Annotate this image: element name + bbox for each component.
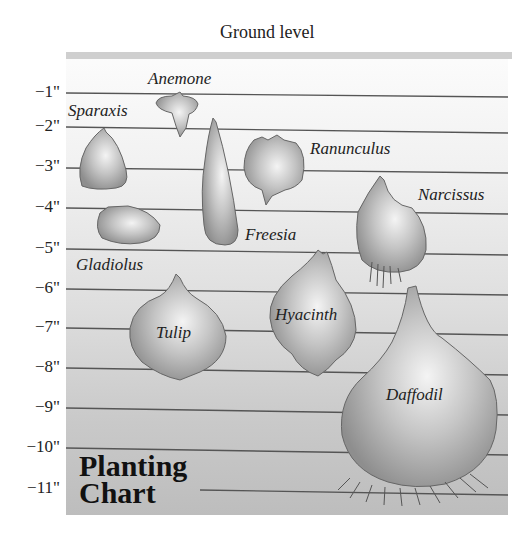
title-line-2: Chart — [79, 479, 187, 506]
label-anemone: Anemone — [147, 69, 212, 88]
label-sparaxis: Sparaxis — [68, 101, 128, 120]
label-hyacinth: Hyacinth — [274, 305, 337, 324]
label-freesia: Freesia — [244, 225, 296, 244]
title-line-1: Planting — [79, 452, 187, 479]
ranunculus-bulb — [244, 135, 304, 205]
label-daffodil: Daffodil — [385, 385, 443, 404]
sparaxis-bulb — [80, 128, 127, 189]
freesia-bulb — [202, 118, 238, 245]
label-tulip: Tulip — [156, 323, 191, 342]
narcissus-bulb — [357, 176, 427, 272]
label-gladiolus: Gladiolus — [76, 255, 143, 274]
planting-chart-title: Planting Chart — [79, 452, 187, 506]
gladiolus-bulb — [97, 206, 160, 244]
label-ranunculus: Ranunculus — [309, 139, 391, 158]
label-narcissus: Narcissus — [417, 185, 485, 204]
anemone-bulb — [156, 92, 198, 137]
